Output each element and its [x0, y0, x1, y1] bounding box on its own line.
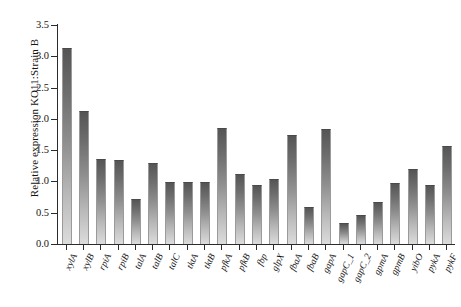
bar: [321, 129, 331, 245]
x-axis-tick-label: gpmB: [389, 252, 407, 276]
y-axis-tick-label: 1.0: [8, 176, 49, 187]
x-axis-tick: [325, 245, 326, 250]
bar: [356, 215, 366, 244]
x-axis-tick: [429, 245, 430, 250]
x-axis-tick: [256, 245, 257, 250]
x-axis-tick-label: talB: [149, 252, 165, 271]
x-axis-tick: [377, 245, 378, 250]
x-axis-tick: [152, 245, 153, 250]
x-axis-tick-label: tktB: [202, 252, 218, 270]
x-axis-tick: [273, 245, 274, 250]
x-axis-tick: [360, 245, 361, 250]
y-axis-tick-label: 0.0: [8, 239, 49, 250]
x-axis-tick: [169, 245, 170, 250]
x-axis-tick-label: talA: [132, 252, 148, 271]
bar: [183, 182, 193, 244]
bar: [114, 160, 124, 244]
bar: [390, 183, 400, 244]
y-axis-tick-label: 2.0: [8, 114, 49, 125]
x-axis-tick-label: gpmA: [372, 252, 390, 276]
x-axis-tick-label: xylA: [63, 252, 79, 272]
bar: [287, 135, 297, 244]
x-axis-tick-label: pykF: [442, 252, 459, 273]
bar: [373, 202, 383, 244]
bar: [442, 146, 452, 244]
x-axis-tick-label: yibO: [408, 252, 425, 273]
x-axis-tick: [100, 245, 101, 250]
y-axis-tick-label: 0.5: [8, 208, 49, 219]
x-axis-tick-label: rpiB: [114, 252, 130, 272]
x-axis-tick-label: glpX: [270, 252, 287, 272]
x-axis-tick: [394, 245, 395, 250]
plot-area: [57, 25, 455, 244]
x-axis-tick: [187, 245, 188, 250]
x-axis-tick-label: pfkB: [235, 252, 251, 272]
y-axis-tick-label: 1.5: [8, 145, 49, 156]
y-axis-tick-label: 3.5: [8, 20, 49, 31]
bar: [425, 185, 435, 244]
bar: [131, 199, 141, 244]
bar: [304, 207, 314, 244]
x-axis-tick-label: fbaB: [304, 252, 321, 272]
bar: [165, 182, 175, 244]
bar-chart-figure: Relative expression KO11:Strain B 0.00.5…: [0, 0, 461, 307]
x-axis-tick: [135, 245, 136, 250]
x-axis-tick: [412, 245, 413, 250]
x-axis-tick: [221, 245, 222, 250]
x-axis-tick: [308, 245, 309, 250]
bar: [148, 163, 158, 244]
x-axis-tick-label: fbp: [255, 252, 269, 267]
x-axis-tick-label: rpiA: [97, 252, 113, 272]
bar: [96, 159, 106, 244]
x-axis-tick-label: gapA: [321, 252, 339, 274]
x-axis-tick: [83, 245, 84, 250]
bar: [79, 111, 89, 244]
x-axis-tick: [66, 245, 67, 250]
bar: [269, 179, 279, 244]
x-axis-tick-label: xylB: [80, 252, 96, 272]
bar: [217, 128, 227, 244]
x-axis-tick-label: pfkA: [218, 252, 234, 272]
bar: [235, 174, 245, 244]
bar: [62, 48, 72, 244]
x-axis-tick: [343, 245, 344, 250]
x-axis-tick-label: tktA: [184, 252, 200, 270]
y-axis-tick-label: 2.5: [8, 83, 49, 94]
x-axis-tick-label: pykA: [425, 252, 442, 273]
x-axis-tick: [204, 245, 205, 250]
bar: [252, 185, 262, 244]
y-axis-tick-label: 3.0: [8, 51, 49, 62]
x-axis-tick: [118, 245, 119, 250]
x-axis-tick: [239, 245, 240, 250]
x-axis-tick-label: talC: [167, 252, 183, 271]
x-axis-tick: [446, 245, 447, 250]
bar: [339, 223, 349, 244]
bar: [200, 182, 210, 244]
x-axis-tick-label: fbaA: [287, 252, 304, 272]
bar: [408, 169, 418, 244]
x-axis-tick: [291, 245, 292, 250]
